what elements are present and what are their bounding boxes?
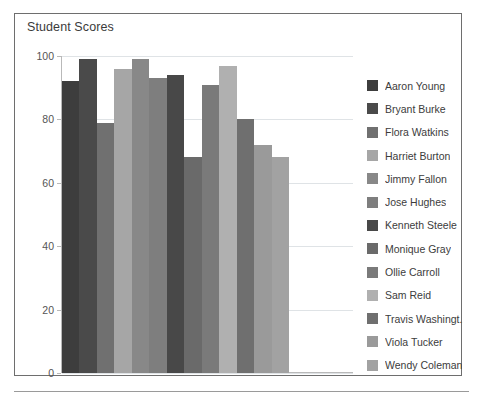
legend-item-label: Kenneth Steele: [385, 219, 457, 231]
legend-item-label: Jose Hughes: [385, 196, 446, 208]
y-axis-tick: [57, 183, 61, 184]
legend-swatch-icon: [367, 103, 378, 114]
bar[interactable]: [97, 123, 114, 373]
legend-item[interactable]: Ollie Carroll: [367, 260, 463, 283]
bar[interactable]: [202, 85, 219, 373]
y-axis-tick-label: 20: [42, 304, 54, 316]
legend-swatch-icon: [367, 290, 378, 301]
legend-item[interactable]: Monique Gray: [367, 237, 463, 260]
y-axis-tick-label: 100: [36, 50, 54, 62]
legend-swatch-icon: [367, 80, 378, 91]
legend-item[interactable]: Jose Hughes: [367, 190, 463, 213]
bar[interactable]: [272, 157, 289, 373]
legend-item[interactable]: Jimmy Fallon: [367, 167, 463, 190]
legend-item[interactable]: Flora Watkins: [367, 121, 463, 144]
y-axis-tick: [57, 56, 61, 57]
legend-item[interactable]: Viola Tucker: [367, 330, 463, 353]
legend-item[interactable]: Wendy Coleman: [367, 354, 463, 377]
bar[interactable]: [79, 59, 96, 373]
legend-item-label: Monique Gray: [385, 243, 451, 255]
legend-item-label: Jimmy Fallon: [385, 173, 447, 185]
horizontal-divider: [14, 391, 469, 392]
legend-item-label: Wendy Coleman: [385, 359, 462, 371]
bar[interactable]: [149, 78, 166, 373]
y-axis-tick-label: 80: [42, 113, 54, 125]
y-axis-tick: [57, 119, 61, 120]
y-axis-tick-label: 60: [42, 177, 54, 189]
bar[interactable]: [219, 66, 236, 373]
y-axis-tick: [57, 310, 61, 311]
legend-swatch-icon: [367, 173, 378, 184]
legend-item-label: Bryant Burke: [385, 103, 446, 115]
legend-item-label: Flora Watkins: [385, 126, 449, 138]
y-axis-tick: [57, 246, 61, 247]
legend-swatch-icon: [367, 360, 378, 371]
legend-item[interactable]: Travis Washingt...: [367, 307, 463, 330]
y-axis-tick-label: 0: [48, 367, 54, 379]
bar[interactable]: [114, 69, 131, 373]
legend-item[interactable]: Kenneth Steele: [367, 214, 463, 237]
legend-swatch-icon: [367, 197, 378, 208]
legend-swatch-icon: [367, 336, 378, 347]
legend-swatch-icon: [367, 313, 378, 324]
legend-swatch-icon: [367, 150, 378, 161]
bar[interactable]: [237, 119, 254, 373]
legend-item-label: Aaron Young: [385, 80, 445, 92]
legend-item-label: Harriet Burton: [385, 150, 450, 162]
bar[interactable]: [184, 157, 201, 373]
legend-swatch-icon: [367, 267, 378, 278]
legend-item-label: Viola Tucker: [385, 336, 443, 348]
bar[interactable]: [132, 59, 149, 373]
legend-item-label: Sam Reid: [385, 289, 431, 301]
chart-frame: Student Scores 020406080100 Aaron YoungB…: [14, 13, 462, 376]
legend-swatch-icon: [367, 127, 378, 138]
chart-title: Student Scores: [27, 20, 114, 34]
bar[interactable]: [62, 81, 79, 373]
legend-item-label: Travis Washingt...: [385, 313, 463, 325]
gridline: [62, 373, 353, 374]
legend-item[interactable]: Harriet Burton: [367, 144, 463, 167]
y-axis-tick-label: 40: [42, 240, 54, 252]
legend-swatch-icon: [367, 220, 378, 231]
chart-legend: Aaron YoungBryant BurkeFlora WatkinsHarr…: [367, 74, 463, 377]
legend-item[interactable]: Aaron Young: [367, 74, 463, 97]
bar[interactable]: [167, 75, 184, 373]
legend-item[interactable]: Bryant Burke: [367, 97, 463, 120]
legend-item[interactable]: Sam Reid: [367, 284, 463, 307]
legend-item-label: Ollie Carroll: [385, 266, 440, 278]
y-axis-tick: [57, 373, 61, 374]
bar-series: [62, 56, 289, 373]
legend-swatch-icon: [367, 243, 378, 254]
bar[interactable]: [254, 145, 271, 373]
